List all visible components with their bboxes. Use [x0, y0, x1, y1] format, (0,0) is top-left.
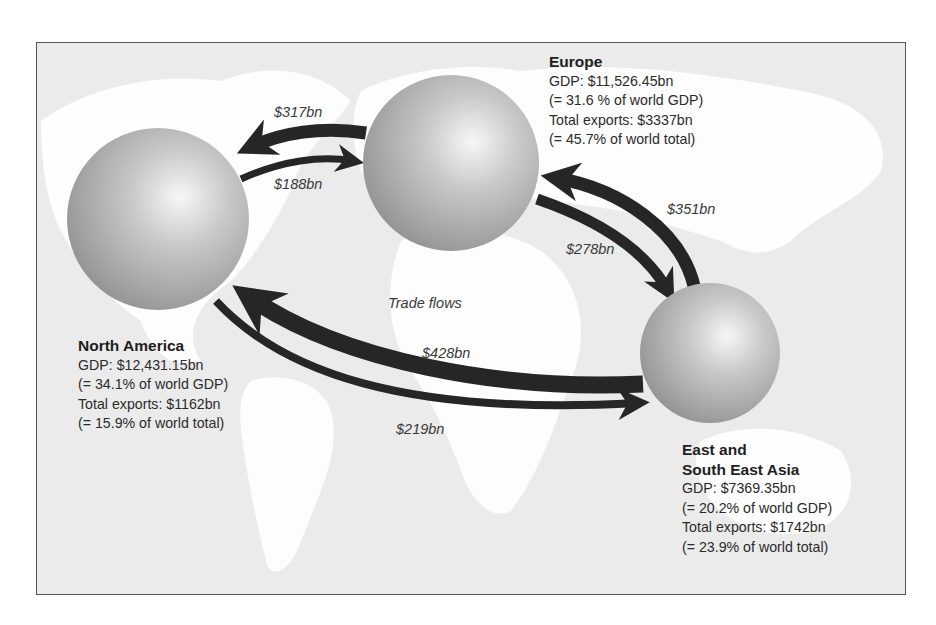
flow-label-europe-to-asia: $278bn	[566, 241, 614, 257]
region-exports-share: (= 45.7% of world total)	[549, 130, 703, 150]
region-title-line-2: South East Asia	[682, 460, 832, 480]
sphere-north-america	[67, 128, 249, 310]
region-label-europe: Europe GDP: $11,526.45bn (= 31.6 % of wo…	[549, 52, 703, 150]
flow-label-europe-to-north-america: $317bn	[274, 104, 322, 120]
region-label-east-south-east-asia: East and South East Asia GDP: $7369.35bn…	[682, 440, 832, 557]
region-title: North America	[78, 336, 228, 356]
region-title-line-1: East and	[682, 440, 832, 460]
sphere-east-south-east-asia	[640, 283, 780, 423]
diagram-caption: Trade flows	[388, 295, 462, 311]
flow-label-asia-to-europe: $351bn	[667, 201, 715, 217]
flow-label-asia-to-north-america: $428bn	[422, 345, 470, 361]
region-exports: Total exports: $3337bn	[549, 111, 703, 131]
flow-label-north-america-to-europe: $188bn	[274, 176, 322, 192]
region-exports-share: (= 15.9% of world total)	[78, 414, 228, 434]
region-gdp-share: (= 31.6 % of world GDP)	[549, 91, 703, 111]
region-gdp-share: (= 20.2% of world GDP)	[682, 499, 832, 519]
region-exports-share: (= 23.9% of world total)	[682, 538, 832, 558]
region-exports: Total exports: $1162bn	[78, 395, 228, 415]
region-exports: Total exports: $1742bn	[682, 518, 832, 538]
region-label-north-america: North America GDP: $12,431.15bn (= 34.1%…	[78, 336, 228, 434]
region-gdp: GDP: $12,431.15bn	[78, 356, 228, 376]
region-gdp: GDP: $11,526.45bn	[549, 72, 703, 92]
flow-label-north-america-to-asia: $219bn	[396, 421, 444, 437]
region-gdp: GDP: $7369.35bn	[682, 479, 832, 499]
region-gdp-share: (= 34.1% of world GDP)	[78, 375, 228, 395]
sphere-europe	[363, 75, 539, 251]
region-title: Europe	[549, 52, 703, 72]
